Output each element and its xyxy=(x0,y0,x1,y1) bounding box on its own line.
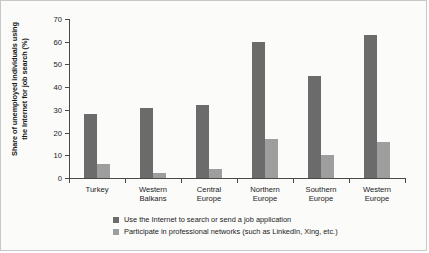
category-separator-5 xyxy=(349,178,350,183)
y-axis-title-line-1: Share of unemployed individuals using xyxy=(10,22,19,156)
x-axis-label-4-line-0: Southern xyxy=(293,185,349,194)
category-separator-0 xyxy=(69,178,70,183)
category-separator-4 xyxy=(293,178,294,183)
bar-group-4 xyxy=(293,19,349,178)
chart-figure: Share of unemployed individuals using th… xyxy=(0,0,427,251)
x-axis-label-5-line-1: Europe xyxy=(349,194,405,203)
bar-5-0 xyxy=(364,35,377,178)
bar-5-1 xyxy=(377,142,390,178)
y-tick-label-10: 10 xyxy=(54,151,62,160)
legend-item-1: Participate in professional networks (su… xyxy=(113,227,338,236)
bar-4-1 xyxy=(321,155,334,178)
bar-group-5 xyxy=(349,19,405,178)
bar-group-2 xyxy=(181,19,237,178)
legend-label-1: Participate in professional networks (su… xyxy=(124,227,338,236)
legend-swatch-icon-0 xyxy=(113,217,119,223)
y-axis-title: Share of unemployed individuals using th… xyxy=(3,9,37,169)
x-axis-label-4-line-1: Europe xyxy=(293,194,349,203)
bar-0-0 xyxy=(84,114,97,178)
x-axis-label-1: WesternBalkans xyxy=(125,185,181,204)
y-axis-title-line-2: the Internet for job search (%) xyxy=(20,38,29,140)
x-axis-category-labels: TurkeyWesternBalkansCentralEuropeNorther… xyxy=(69,185,405,204)
plot-area: 010203040506070 xyxy=(69,19,405,178)
y-tick-label-60: 60 xyxy=(54,37,62,46)
x-axis-label-1-line-0: Western xyxy=(125,185,181,194)
x-axis-label-2: CentralEurope xyxy=(181,185,237,204)
y-tick-label-0: 0 xyxy=(58,174,62,183)
y-tick-label-70: 70 xyxy=(54,15,62,24)
chart-legend: Use the Internet to search or send a job… xyxy=(113,215,338,239)
bar-3-1 xyxy=(265,139,278,178)
category-separator-1 xyxy=(125,178,126,183)
x-axis-label-2-line-1: Europe xyxy=(181,194,237,203)
bar-2-0 xyxy=(196,105,209,178)
bar-0-1 xyxy=(97,164,110,178)
legend-swatch-icon-1 xyxy=(113,229,119,235)
y-tick-label-30: 30 xyxy=(54,105,62,114)
y-tick-label-40: 40 xyxy=(54,83,62,92)
x-axis-label-1-line-1: Balkans xyxy=(125,194,181,203)
x-axis-label-3-line-0: Northern xyxy=(237,185,293,194)
x-axis-label-5: WesternEurope xyxy=(349,185,405,204)
bar-4-0 xyxy=(308,76,321,178)
x-axis-label-0: Turkey xyxy=(69,185,125,204)
legend-item-0: Use the Internet to search or send a job… xyxy=(113,215,338,224)
y-tick-label-50: 50 xyxy=(54,60,62,69)
x-axis-label-3-line-1: Europe xyxy=(237,194,293,203)
bar-group-3 xyxy=(237,19,293,178)
category-separator-6 xyxy=(405,178,406,183)
bar-1-1 xyxy=(153,173,166,178)
x-axis-label-0-line-0: Turkey xyxy=(69,185,125,194)
legend-label-0: Use the Internet to search or send a job… xyxy=(124,215,291,224)
bar-group-0 xyxy=(69,19,125,178)
x-axis-label-3: NorthernEurope xyxy=(237,185,293,204)
bar-2-1 xyxy=(209,169,222,178)
bar-1-0 xyxy=(140,108,153,178)
category-separator-3 xyxy=(237,178,238,183)
y-tick-label-20: 20 xyxy=(54,128,62,137)
x-axis-label-4: SouthernEurope xyxy=(293,185,349,204)
x-axis-label-2-line-0: Central xyxy=(181,185,237,194)
bar-groups xyxy=(69,19,405,178)
bar-group-1 xyxy=(125,19,181,178)
bar-3-0 xyxy=(252,42,265,178)
x-axis-label-5-line-0: Western xyxy=(349,185,405,194)
category-separator-2 xyxy=(181,178,182,183)
